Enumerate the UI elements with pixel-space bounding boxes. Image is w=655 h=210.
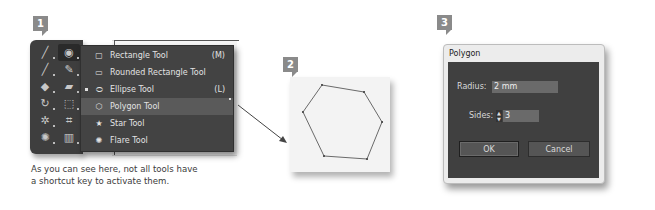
dialog-title: Polygon [449,49,480,58]
step-badge-2: 2 [283,57,298,72]
step-badge-3: 3 [437,15,452,30]
radius-label: Radius: [457,82,487,91]
ok-button[interactable]: OK [459,141,519,157]
artboard-canvas[interactable] [290,77,390,172]
polygon-dialog: Polygon Radius: 2 mm Sides: ▲▼ 3 OK Canc… [443,44,605,184]
sides-label: Sides: [469,111,493,120]
sides-stepper-icon[interactable]: ▲▼ [496,110,502,122]
sides-input[interactable]: 3 [503,110,539,122]
dialog-body: Radius: 2 mm Sides: ▲▼ 3 OK Cancel [448,62,599,178]
cancel-button[interactable]: Cancel [528,141,590,157]
hexagon-shape [290,77,390,172]
radius-input[interactable]: 2 mm [492,81,558,93]
